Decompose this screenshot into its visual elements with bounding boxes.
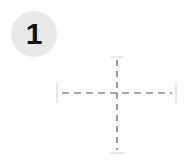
crosshair-icon <box>0 0 194 166</box>
